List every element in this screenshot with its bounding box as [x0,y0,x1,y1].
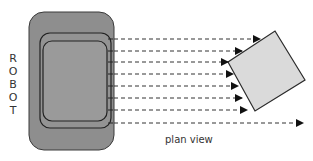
robot-body [29,12,114,150]
robot-label-letter-t: T [9,104,17,117]
robot-label-letter-b: B [9,78,17,91]
robot-label-letter-o2: O [9,91,18,104]
robot-label-letter-o1: O [9,65,18,78]
robot-inner-panel [43,41,107,121]
robot-label-letter-r: R [9,52,17,65]
obstacle-box [228,31,305,111]
robot-side-label: R O B O T [9,52,18,117]
caption-plan-view: plan view [165,134,213,145]
robot-sensor-diagram: R O B O T plan view [0,0,313,161]
